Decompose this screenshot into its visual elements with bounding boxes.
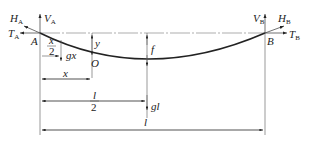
- label-ha: HA: [9, 12, 23, 26]
- label-vb: VB: [253, 12, 265, 26]
- label-f: f: [151, 43, 156, 55]
- label-va: VA: [44, 12, 56, 26]
- hb-force-arrow: [265, 26, 284, 33]
- label-l-half-den: 2: [91, 101, 97, 113]
- cable-diagram: HA VA TA A x 2 gx y O x f l 2 gl l VB HB…: [0, 0, 314, 146]
- label-y: y: [94, 37, 100, 49]
- label-x: x: [62, 67, 68, 79]
- label-gx: gx: [66, 49, 77, 61]
- ha-force-arrow: [24, 26, 40, 33]
- label-x-half-den: 2: [49, 45, 55, 57]
- label-l: l: [144, 116, 147, 128]
- label-tb: TB: [289, 28, 300, 42]
- label-ta: TA: [8, 27, 19, 41]
- label-a: A: [30, 35, 38, 47]
- label-l-half-num: l: [93, 89, 96, 101]
- label-hb: HB: [277, 12, 291, 26]
- label-gl: gl: [151, 100, 160, 112]
- label-o: O: [91, 57, 99, 69]
- label-b: B: [267, 35, 274, 47]
